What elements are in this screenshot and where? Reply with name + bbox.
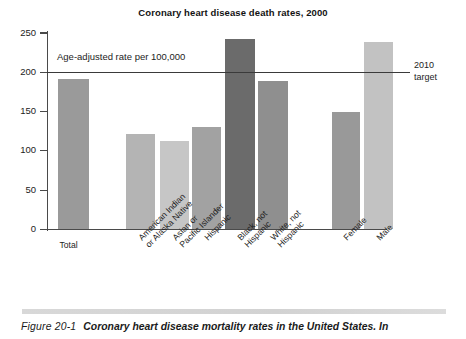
- divider-rule: [22, 309, 446, 314]
- x-axis-label-black-not-hispanic: Black, notHispanic: [236, 209, 276, 249]
- x-axis-labels: TotalAmerican Indianor Alaska NativeAsia…: [0, 0, 466, 339]
- x-axis-label-line: Male: [375, 223, 395, 243]
- figure-number: Figure 20-1: [21, 321, 76, 332]
- x-axis-label-total: Total: [60, 241, 78, 251]
- x-axis-label-female: Female: [342, 216, 369, 243]
- figure-caption-text: Coronary heart disease mortality rates i…: [83, 321, 388, 332]
- x-axis-label-line: Female: [342, 216, 369, 243]
- x-axis-label-line: Total: [60, 241, 78, 251]
- x-axis-label-white-not-hispanic: White, notHispanic: [269, 209, 310, 250]
- figure-caption: Figure 20-1Coronary heart disease mortal…: [21, 321, 466, 332]
- x-axis-label-male: Male: [375, 223, 395, 243]
- figure-container: Coronary heart disease death rates, 2000…: [0, 0, 466, 339]
